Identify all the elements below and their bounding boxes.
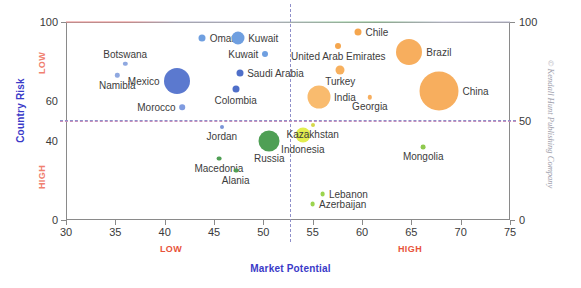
x-axis-title: Market Potential [0, 263, 581, 274]
x-axis-qualifier-high: HIGH [398, 244, 422, 254]
data-point-label: Brazil [426, 46, 451, 57]
x-tick-label: 75 [504, 226, 516, 238]
x-tick-label: 65 [405, 226, 417, 238]
x-axis-qualifier-low: LOW [160, 244, 182, 254]
data-point-bubble [217, 156, 222, 161]
y-tick-right [510, 22, 515, 23]
x-tick [115, 220, 116, 225]
data-point-label: Colombia [215, 94, 257, 105]
x-tick-label: 60 [356, 226, 368, 238]
x-tick [165, 220, 166, 225]
y-tick-label-left: 100 [40, 16, 58, 28]
x-tick-label: 40 [159, 226, 171, 238]
data-point-bubble [180, 104, 186, 110]
y-tick-left [61, 22, 66, 23]
data-point-label: Russia [254, 153, 285, 164]
data-point-bubble [231, 31, 244, 44]
frame-top-tint [66, 21, 510, 23]
data-point-label: Jordan [207, 130, 238, 141]
x-tick [313, 220, 314, 225]
data-point-label: United Arab Emirates [291, 50, 386, 61]
x-tick [461, 220, 462, 225]
data-point-label: Turkey [325, 76, 355, 87]
data-point-bubble [262, 51, 268, 57]
data-point-bubble [220, 125, 224, 129]
data-point-bubble [336, 65, 345, 74]
vertical-reference-line [290, 4, 291, 242]
x-tick [263, 220, 264, 225]
y-tick-label-left: 60 [46, 95, 58, 107]
data-point-label: Kuwait [228, 48, 258, 59]
data-point-label: Mongolia [403, 151, 444, 162]
x-tick-label: 30 [60, 226, 72, 238]
copyright-notice: © Kendall Hunt Publishing Company [546, 60, 556, 188]
data-point-label: China [462, 86, 488, 97]
x-tick-label: 70 [455, 226, 467, 238]
x-tick [411, 220, 412, 225]
data-point-label: Mexico [128, 76, 160, 87]
y-tick-label-right: 100 [519, 16, 537, 28]
x-tick [362, 220, 363, 225]
data-point-bubble [355, 28, 362, 35]
x-tick-label: 55 [307, 226, 319, 238]
y-tick-label-right: 0 [519, 214, 525, 226]
y-tick-label-right: 50 [519, 115, 531, 127]
data-point-label: Kuwait [248, 32, 278, 43]
data-point-bubble [311, 123, 315, 127]
bubble-chart: 3035404550556065707504060100050100 OmanK… [0, 0, 581, 288]
data-point-bubble [232, 86, 239, 93]
data-point-bubble [335, 43, 341, 49]
y-tick-left [61, 220, 66, 221]
y-tick-label-left: 0 [52, 214, 58, 226]
x-tick-label: 50 [257, 226, 269, 238]
data-point-label: Kazakhstan [287, 128, 339, 139]
data-point-label: Indonesia [281, 144, 324, 155]
data-point-bubble [199, 34, 206, 41]
data-point-bubble [236, 70, 243, 77]
y-axis-title: Country Risk [15, 56, 26, 166]
data-point-label: Alania [222, 174, 250, 185]
x-tick [214, 220, 215, 225]
data-point-bubble [419, 72, 458, 111]
data-point-label: Georgia [352, 101, 388, 112]
data-point-label: Chile [366, 26, 389, 37]
y-axis-qualifier-low: LOW [37, 43, 47, 83]
data-point-bubble [320, 192, 325, 197]
data-point-label: Botswana [103, 49, 147, 60]
x-tick-label: 35 [109, 226, 121, 238]
y-tick-label-left: 40 [46, 135, 58, 147]
x-tick [66, 220, 67, 225]
data-point-bubble [233, 168, 238, 173]
x-tick-label: 45 [208, 226, 220, 238]
horizontal-reference-line-secondary [60, 121, 516, 122]
y-axis-qualifier-high: HIGH [37, 157, 47, 197]
y-tick-right [510, 220, 515, 221]
data-point-label: Morocco [137, 102, 175, 113]
data-point-bubble [259, 130, 280, 151]
data-point-bubble [421, 144, 426, 149]
data-point-label: Saudi Arabia [247, 68, 304, 79]
data-point-bubble [310, 202, 315, 207]
data-point-label: Azerbaijan [319, 199, 366, 210]
data-point-bubble [307, 86, 330, 109]
data-point-bubble [164, 68, 190, 94]
data-point-bubble [396, 39, 422, 65]
